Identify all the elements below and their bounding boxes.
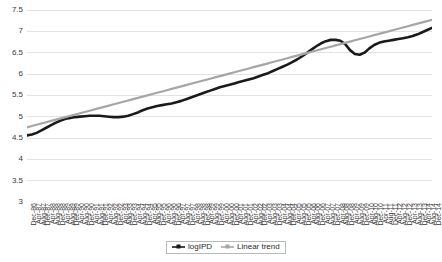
x-axis: Dec-86Apr-87Aug-87Dec-87Apr-88Aug-88Dec-… bbox=[27, 203, 432, 243]
legend-label: logIPD bbox=[188, 243, 212, 251]
legend-label: Linear trend bbox=[237, 243, 280, 251]
y-axis-tick-label: 6 bbox=[0, 70, 23, 78]
y-axis-tick-label: 5 bbox=[0, 113, 23, 121]
legend-entry[interactable]: Linear trend bbox=[221, 243, 280, 251]
chart-canvas bbox=[27, 10, 432, 202]
y-axis-tick-label: 3.5 bbox=[0, 177, 23, 185]
y-axis: 33.544.555.566.577.5 bbox=[0, 10, 24, 202]
chart-legend: logIPDLinear trend bbox=[166, 241, 286, 254]
legend-line-marker-icon bbox=[221, 243, 234, 251]
y-axis-tick-label: 7.5 bbox=[0, 6, 23, 14]
legend-entry[interactable]: logIPD bbox=[172, 243, 212, 251]
y-axis-tick-label: 4.5 bbox=[0, 134, 23, 142]
legend-line-marker-icon bbox=[172, 243, 185, 251]
y-axis-tick-label: 5.5 bbox=[0, 91, 23, 99]
series-line-logipd bbox=[27, 28, 432, 136]
plot-area bbox=[27, 10, 432, 202]
y-axis-tick-label: 6.5 bbox=[0, 49, 23, 57]
y-axis-tick-label: 3 bbox=[0, 198, 23, 206]
y-axis-tick-label: 4 bbox=[0, 155, 23, 163]
y-axis-tick-label: 7 bbox=[0, 27, 23, 35]
x-axis-tick-label: Dec-14 bbox=[435, 203, 442, 226]
